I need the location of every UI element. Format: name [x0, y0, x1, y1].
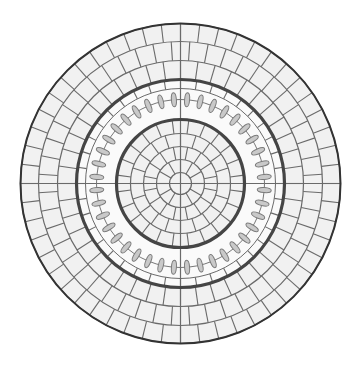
circular-mosaic-svg	[0, 0, 358, 366]
